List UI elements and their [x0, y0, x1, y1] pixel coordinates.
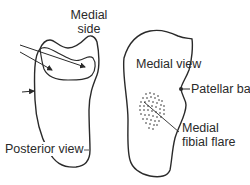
prosthetic-socket-diagram: Medial side Medial view Patellar bar Pos… — [0, 0, 250, 185]
medial-view-label: Medial view — [136, 57, 201, 71]
medial-side-label-line2: side — [66, 22, 112, 36]
medial-side-inner-loop — [40, 48, 95, 80]
medial-flare-label-line1: Medial — [182, 121, 219, 135]
medial-side-label-line1: Medial — [66, 8, 112, 22]
arrow-lower — [22, 91, 34, 92]
medial-flare-label-line2: fibial flare — [182, 135, 236, 149]
medial-view-outline — [124, 30, 193, 176]
arrow-upper-long — [20, 45, 85, 67]
patellar-bar-label: Patellar bar — [191, 82, 250, 96]
medial-flare-dots — [139, 92, 165, 130]
posterior-view-label: Posterior view — [5, 142, 84, 156]
